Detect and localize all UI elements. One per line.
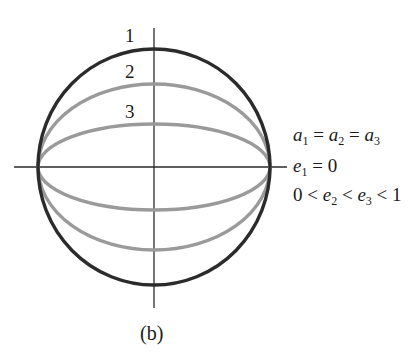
figure-caption: (b) [140,322,163,345]
svg-text:e1 = 0: e1 = 0 [293,155,337,179]
svg-text:a1 = a2 = a3: a1 = a2 = a3 [293,124,380,148]
ellipsoid-diagram: 1 2 3 a1 = a2 = a3 e1 = 0 0 < e2 < e3 < … [0,0,418,360]
annotation-e1-zero: e1 = 0 [293,155,337,179]
svg-text:0 < e2 < e3 < 1: 0 < e2 < e3 < 1 [293,184,402,208]
annotation-e-range: 0 < e2 < e3 < 1 [293,184,402,208]
annotation-equal-axes: a1 = a2 = a3 [293,124,380,148]
curve-2-label: 2 [125,61,135,82]
curve-1-label: 1 [125,25,135,46]
curve-3-label: 3 [125,101,135,122]
